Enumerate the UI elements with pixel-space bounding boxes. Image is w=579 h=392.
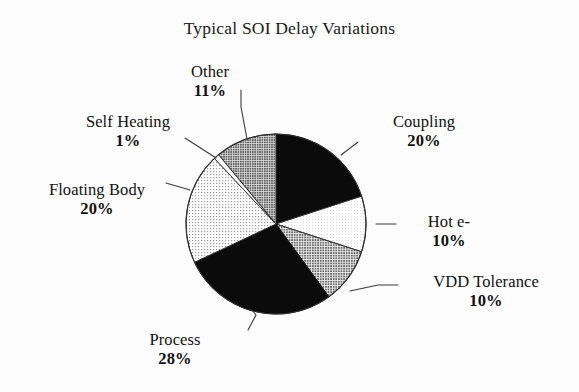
chart-page: Typical SOI Delay Variations <box>0 0 579 392</box>
pie-label-hot-e-name: Hot e- <box>404 212 494 231</box>
pie-label-hot-e-percent: 10% <box>404 231 494 250</box>
pie-label-other-percent: 11% <box>155 81 265 100</box>
pie-label-other-name: Other <box>155 62 265 81</box>
pie-slices <box>186 134 366 314</box>
pie-label-process: Process 28% <box>110 330 240 369</box>
pie-label-vdd-tolerance-name: VDD Tolerance <box>400 272 572 291</box>
pie-label-coupling-name: Coupling <box>364 112 484 131</box>
pie-label-self-heating: Self Heating 1% <box>48 112 208 151</box>
leader-line-coupling <box>341 142 358 155</box>
pie-label-vdd-tolerance-percent: 10% <box>400 291 572 310</box>
pie-label-floating-body-percent: 20% <box>12 199 182 218</box>
pie-label-process-name: Process <box>110 330 240 349</box>
pie-label-coupling-percent: 20% <box>364 131 484 150</box>
leader-line-process <box>248 311 256 330</box>
pie-label-vdd-tolerance: VDD Tolerance 10% <box>400 272 572 311</box>
pie-label-hot-e: Hot e- 10% <box>404 212 494 251</box>
pie-label-coupling: Coupling 20% <box>364 112 484 151</box>
leader-line-vdd-tolerance <box>350 285 398 291</box>
pie-label-other: Other 11% <box>155 62 265 101</box>
pie-label-self-heating-percent: 1% <box>48 131 208 150</box>
pie-label-self-heating-name: Self Heating <box>48 112 208 131</box>
pie-label-floating-body-name: Floating Body <box>12 180 182 199</box>
pie-label-process-percent: 28% <box>110 349 240 368</box>
pie-label-floating-body: Floating Body 20% <box>12 180 182 219</box>
